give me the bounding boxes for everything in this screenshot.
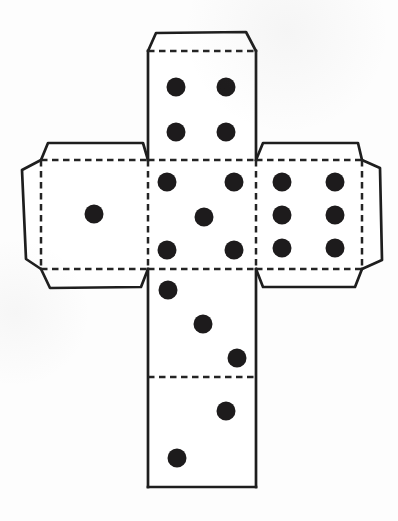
face-four-top-pip-2 [217,78,236,97]
face-four-top-pip-1 [167,78,186,97]
dice-net-diagram [0,0,398,521]
face-five-center-pip-1 [158,173,177,192]
face-six-right-panel [256,160,362,269]
tab-top-fill [148,32,256,51]
tab-left-bottom-fill [41,269,148,288]
face-four-top-pip-3 [167,123,186,142]
face-six-right-pip-6 [326,239,345,258]
face-three-pip-3 [228,349,247,368]
face-six-right-pip-4 [326,206,345,225]
face-six-right-pip-5 [273,239,292,258]
face-two-bottom-panel [148,377,256,487]
face-five-center-pip-5 [225,241,244,260]
face-four-top-pip-4 [217,123,236,142]
face-one-left-pip-1 [85,205,104,224]
tab-left-top-fill [41,143,148,160]
face-six-right-pip-2 [326,173,345,192]
face-two-bottom-pip-2 [168,449,187,468]
tab-right-bottom-fill [256,269,362,287]
face-three-pip-2 [194,315,213,334]
face-five-center-pip-2 [225,173,244,192]
face-two-bottom-pip-1 [217,402,236,421]
face-one-left-pips [85,205,104,224]
tab-right-top-fill [256,143,362,160]
worksheet-page [0,0,398,521]
face-six-right-pip-3 [273,206,292,225]
face-three-pip-1 [159,281,178,300]
face-five-center-pip-3 [195,208,214,227]
face-four-top-panel [148,51,256,160]
face-five-center-pip-4 [158,241,177,260]
face-six-right-pip-1 [273,173,292,192]
